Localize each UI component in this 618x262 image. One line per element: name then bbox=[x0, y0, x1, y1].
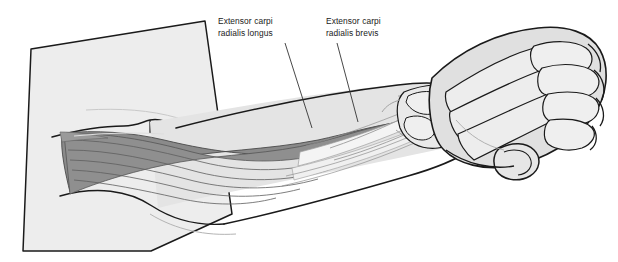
forearm-anatomy-drawing bbox=[0, 0, 618, 262]
hand-segment bbox=[429, 27, 606, 179]
anatomical-figure: Extensor carpi radialis longus Extensor … bbox=[0, 0, 618, 262]
label-ecrl-line1: Extensor carpi bbox=[218, 16, 273, 28]
phalanx-little bbox=[544, 119, 594, 150]
label-extensor-carpi-radialis-brevis: Extensor carpi radialis brevis bbox=[326, 16, 381, 39]
label-ecrb-line1: Extensor carpi bbox=[326, 16, 381, 28]
label-extensor-carpi-radialis-longus: Extensor carpi radialis longus bbox=[218, 16, 273, 39]
label-ecrb-line2: radialis brevis bbox=[326, 28, 381, 40]
label-ecrl-line2: radialis longus bbox=[218, 28, 273, 40]
